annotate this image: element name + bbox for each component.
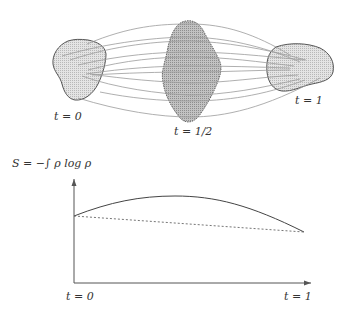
x-label-end: t = 1 <box>284 290 312 303</box>
label-t1: t = 1 <box>295 94 323 107</box>
entropy-curve <box>74 196 304 232</box>
density-blob-t0 <box>53 39 106 100</box>
diagram-canvas: t = 0 t = 1/2 t = 1 S = −∫ ρ log ρ t = 0… <box>0 0 343 314</box>
transport-diagram: t = 0 t = 1/2 t = 1 <box>53 21 334 138</box>
label-t0: t = 0 <box>54 110 82 123</box>
label-t-half: t = 1/2 <box>174 125 212 138</box>
x-label-start: t = 0 <box>66 290 94 303</box>
chord-dashed-line <box>74 216 304 232</box>
entropy-plot: S = −∫ ρ log ρ t = 0 t = 1 <box>12 157 312 303</box>
y-axis-label: S = −∫ ρ log ρ <box>12 157 92 170</box>
